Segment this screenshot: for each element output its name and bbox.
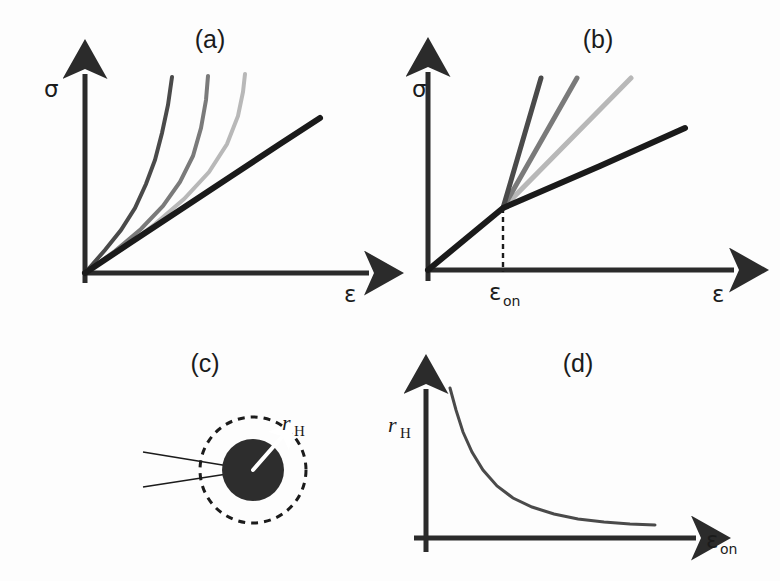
panel-d-label: (d): [563, 349, 594, 377]
panel-b-onset-subscript: on: [503, 293, 520, 309]
panel-c-label: (c): [190, 349, 219, 377]
panel-b-label: (b): [583, 25, 614, 53]
panel-a-y-axis-label: σ: [44, 76, 59, 102]
panel-b-onset-symbol: ε: [489, 279, 501, 305]
panel-b-y-axis-label: σ: [412, 76, 427, 102]
panel-a-label: (a): [195, 25, 226, 53]
panel-d-x-axis-subscript: on: [720, 541, 737, 557]
panel-b-x-axis-label: ε: [712, 281, 724, 307]
panel-a-x-axis-label: ε: [344, 281, 356, 307]
figure-root: (a) σ ε (b) σ ε ε on: [0, 0, 780, 581]
panel-d-x-axis-symbol: ε: [706, 527, 718, 553]
panel-c-radius-subscript: H: [294, 423, 305, 439]
panel-d-y-axis-symbol: r: [388, 412, 397, 437]
figure-background: [0, 0, 780, 581]
panel-d-y-axis-subscript: H: [400, 425, 411, 441]
panel-c-radius-symbol: r: [282, 410, 291, 435]
scientific-figure-canvas: (a) σ ε (b) σ ε ε on: [0, 0, 780, 581]
